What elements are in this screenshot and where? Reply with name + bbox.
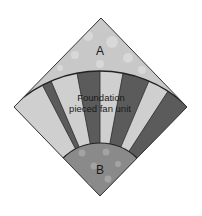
region-b-label: B — [96, 163, 104, 177]
fan-label-line2: pieced fan unit — [69, 103, 131, 114]
quilt-block-diagram: A Foundation pieced fan unit B — [0, 0, 202, 216]
fan-label-line1: Foundation — [77, 92, 125, 103]
region-a-label: A — [96, 44, 104, 58]
